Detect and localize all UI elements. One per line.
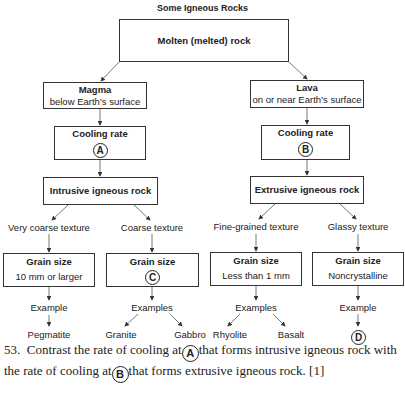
example-rhyolite: Rhyolite — [207, 329, 253, 340]
lava-title: Lava — [251, 82, 363, 94]
magma-subtitle: below Earth’s surface — [44, 96, 146, 108]
lava-box: Lava on or near Earth’s surface — [250, 80, 364, 108]
texture-very-coarse: Very coarse texture — [0, 222, 98, 233]
examples-label-glassy: Example — [310, 302, 405, 313]
texture-glassy: Glassy texture — [310, 221, 405, 232]
grain-size-title: Grain size — [4, 256, 94, 268]
question-marker-a: A — [182, 345, 199, 362]
example-pegmatite: Pegmatite — [19, 329, 79, 340]
lava-subtitle: on or near Earth’s surface — [251, 94, 363, 106]
magma-box: Magma below Earth’s surface — [43, 82, 147, 109]
molten-rock-box: Molten (melted) rock — [119, 19, 289, 62]
extrusive-rock-label: Extrusive igneous rock — [255, 184, 360, 195]
examples-label-fine-grained: Examples — [207, 302, 305, 313]
grain-size-value: Less than 1 mm — [211, 270, 301, 282]
cooling-rate-a-title: Cooling rate — [55, 128, 145, 140]
intrusive-rock-box: Intrusive igneous rock — [43, 177, 158, 205]
cooling-rate-b-box: Cooling rate B — [261, 125, 350, 160]
question-53: 53. Contrast the rate of cooling atAthat… — [4, 341, 404, 383]
marker-c-circle: C — [145, 270, 160, 285]
examples-label-very-coarse: Example — [0, 302, 98, 313]
grain-size-title: Grain size — [107, 256, 198, 268]
texture-coarse: Coarse texture — [104, 222, 200, 233]
examples-label-coarse: Examples — [104, 302, 200, 313]
example-gabbro: Gabbro — [168, 329, 212, 340]
grain-size-box-glassy: Grain size Noncrystalline — [312, 252, 404, 286]
cooling-rate-a-box: Cooling rate A — [54, 126, 146, 160]
cooling-rate-b-title: Cooling rate — [262, 127, 349, 139]
grain-size-value: Noncrystalline — [313, 270, 403, 282]
grain-size-box-coarse: Grain size C — [106, 253, 199, 287]
marker-a-circle: A — [93, 143, 108, 158]
grain-size-box-fine-grained: Grain size Less than 1 mm — [210, 252, 302, 286]
question-marker-b: B — [112, 366, 129, 383]
example-basalt: Basalt — [271, 329, 311, 340]
texture-fine-grained: Fine-grained texture — [207, 221, 305, 232]
grain-size-title: Grain size — [211, 255, 301, 267]
grain-size-box-very-coarse: Grain size 10 mm or larger — [3, 253, 95, 287]
example-granite: Granite — [96, 329, 146, 340]
extrusive-rock-box: Extrusive igneous rock — [250, 176, 364, 204]
question-text-1: Contrast the rate of cooling at — [27, 342, 182, 357]
intrusive-rock-label: Intrusive igneous rock — [50, 185, 151, 196]
question-text-3: that forms extrusive igneous rock. [1] — [129, 363, 325, 378]
question-number: 53. — [4, 342, 20, 357]
grain-size-value: 10 mm or larger — [4, 271, 94, 283]
grain-size-title: Grain size — [313, 255, 403, 267]
marker-b-circle: B — [298, 142, 313, 157]
molten-rock-label: Molten (melted) rock — [158, 35, 251, 46]
magma-title: Magma — [44, 84, 146, 96]
